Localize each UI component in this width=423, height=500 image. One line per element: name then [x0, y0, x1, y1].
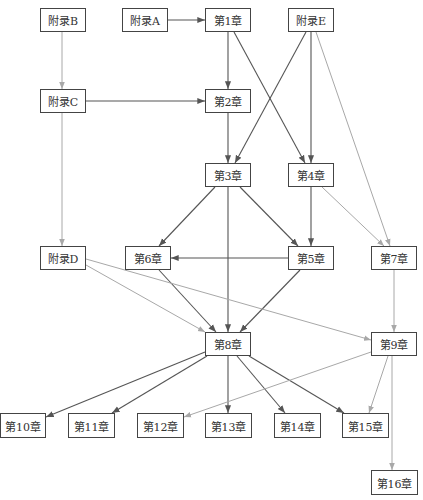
- edge-ch3-to-ch5: [240, 187, 298, 246]
- node-label: 第16章: [377, 475, 413, 491]
- node-ch2: 第2章: [205, 89, 251, 113]
- node-ch5: 第5章: [288, 246, 334, 270]
- node-label: 附录D: [48, 250, 79, 266]
- node-appA: 附录A: [122, 8, 168, 32]
- node-appD: 附录D: [40, 246, 86, 270]
- node-ch12: 第12章: [137, 413, 184, 438]
- node-label: 第15章: [348, 418, 384, 434]
- node-ch4: 第4章: [288, 163, 334, 187]
- node-label: 第13章: [211, 418, 247, 434]
- node-label: 第1章: [214, 12, 243, 28]
- node-label: 附录A: [130, 12, 160, 28]
- node-ch11: 第11章: [68, 413, 115, 438]
- edge-ch9-to-ch15: [369, 356, 388, 413]
- node-label: 第8章: [214, 336, 243, 352]
- node-ch8: 第8章: [205, 332, 251, 356]
- node-label: 附录C: [48, 93, 78, 109]
- edge-ch5-to-ch8: [240, 270, 300, 332]
- node-appE: 附录E: [288, 8, 334, 32]
- edge-ch9-to-ch12: [184, 352, 371, 417]
- node-label: 附录E: [296, 12, 326, 28]
- node-label: 第14章: [280, 418, 316, 434]
- edge-ch3-to-ch6: [159, 187, 215, 246]
- node-label: 第10章: [5, 418, 41, 434]
- node-label: 第7章: [380, 250, 409, 266]
- node-ch1: 第1章: [205, 8, 251, 32]
- node-ch13: 第13章: [205, 413, 252, 438]
- dependency-arrows: [46, 20, 394, 470]
- node-label: 第5章: [297, 250, 326, 266]
- node-ch6: 第6章: [125, 246, 171, 270]
- edge-ch4-to-ch7: [322, 187, 384, 246]
- node-label: 第4章: [297, 167, 326, 183]
- node-ch10: 第10章: [0, 413, 46, 438]
- edge-appD-to-ch8: [86, 265, 205, 332]
- node-appC: 附录C: [40, 89, 86, 113]
- node-label: 第2章: [214, 93, 243, 109]
- node-ch3: 第3章: [205, 163, 251, 187]
- node-label: 第6章: [134, 250, 163, 266]
- node-ch15: 第15章: [342, 413, 389, 438]
- node-label: 第3章: [214, 167, 243, 183]
- node-label: 第12章: [143, 418, 179, 434]
- edge-appE-to-ch7: [316, 32, 390, 246]
- node-label: 附录B: [48, 12, 78, 28]
- node-label: 第11章: [74, 418, 110, 434]
- edge-ch8-to-ch15: [249, 356, 344, 413]
- node-appB: 附录B: [40, 8, 86, 32]
- node-label: 第9章: [380, 336, 409, 352]
- node-ch14: 第14章: [274, 413, 321, 438]
- node-ch9: 第9章: [371, 332, 417, 356]
- edge-ch8-to-ch10: [46, 352, 205, 417]
- node-ch7: 第7章: [371, 246, 417, 270]
- node-ch16: 第16章: [371, 470, 418, 495]
